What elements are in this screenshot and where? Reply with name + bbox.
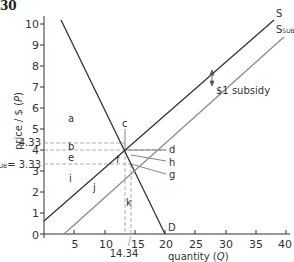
svg-text:30: 30 xyxy=(219,238,233,251)
y-ticks xyxy=(40,24,44,213)
svg-text:d: d xyxy=(169,144,175,155)
supply-sub-curve xyxy=(64,37,284,234)
demand-curve xyxy=(61,20,165,234)
svg-text:g: g xyxy=(169,169,175,180)
svg-text:2: 2 xyxy=(32,186,39,199)
svg-text:a: a xyxy=(68,113,74,124)
svg-text:e: e xyxy=(68,152,74,163)
supply-curve xyxy=(44,20,274,221)
ssub-label: SSUB xyxy=(276,24,294,35)
svg-text:j: j xyxy=(92,182,96,193)
svg-text:0: 0 xyxy=(32,229,39,242)
q-1434-label: 14.34 xyxy=(110,248,139,259)
svg-text:25: 25 xyxy=(189,238,203,251)
psub-label: PSUB= 3.33 xyxy=(0,159,41,170)
svg-text:6: 6 xyxy=(32,102,39,115)
svg-text:8: 8 xyxy=(32,60,39,73)
svg-text:1: 1 xyxy=(32,207,39,220)
svg-text:35: 35 xyxy=(249,238,263,251)
svg-text:20: 20 xyxy=(159,238,173,251)
svg-text:h: h xyxy=(169,157,175,168)
svg-text:k: k xyxy=(126,197,132,208)
svg-text:c: c xyxy=(122,118,128,129)
x-tick-labels: 5 10 15 20 25 30 35 40 xyxy=(72,238,293,251)
svg-text:10: 10 xyxy=(25,18,39,31)
x-ticks xyxy=(74,230,286,234)
svg-text:7: 7 xyxy=(32,81,39,94)
price-433-label: 4.33 xyxy=(19,137,41,148)
svg-text:b: b xyxy=(68,141,74,152)
area-labels: a b c d e f g h i j k xyxy=(68,113,175,208)
svg-text:5: 5 xyxy=(32,123,39,136)
subsidy-chart: 30 0 1 2 3 4 5 6 7 8 9 10 5 10 15 20 25 … xyxy=(0,0,294,262)
svg-text:f: f xyxy=(116,154,120,165)
reference-lines xyxy=(44,143,166,234)
svg-text:i: i xyxy=(69,173,72,184)
s-label: S xyxy=(276,8,282,19)
x-axis-title: quantity (Q) xyxy=(168,251,229,262)
svg-text:5: 5 xyxy=(72,238,79,251)
y-tick-labels: 0 1 2 3 4 5 6 7 8 9 10 xyxy=(25,18,39,242)
figure-number: 30 xyxy=(0,0,17,13)
svg-text:40: 40 xyxy=(278,238,292,251)
d-label: D xyxy=(168,222,176,233)
svg-text:9: 9 xyxy=(32,39,39,52)
subsidy-label: $1 subsidy xyxy=(216,85,270,96)
